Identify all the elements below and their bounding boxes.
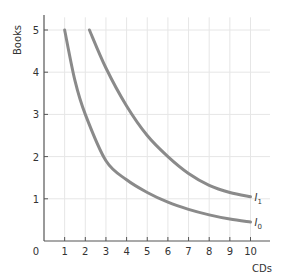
x-tick-label: 2 xyxy=(82,246,88,257)
y-tick-label: 1 xyxy=(33,194,39,205)
x-tick-label: 9 xyxy=(227,246,233,257)
x-tick-label: 7 xyxy=(185,246,191,257)
y-tick-label: 4 xyxy=(33,67,39,78)
x-tick-label: 8 xyxy=(206,246,212,257)
x-tick-label: 1 xyxy=(61,246,67,257)
x-axis-title: CDs xyxy=(252,263,272,274)
labels: 01234567891012345CDsBooksI0I1 xyxy=(12,25,272,274)
x-tick-label: 10 xyxy=(244,246,257,257)
x-tick-label: 5 xyxy=(144,246,150,257)
curve-label-i0: I0 xyxy=(255,217,262,231)
curves xyxy=(65,30,251,222)
y-tick-label: 2 xyxy=(33,152,39,163)
curve-label-i1: I1 xyxy=(255,192,262,206)
y-tick-label: 3 xyxy=(33,109,39,120)
axes xyxy=(44,15,270,241)
y-axis-title: Books xyxy=(12,25,23,55)
indifference-curve-chart: 01234567891012345CDsBooksI0I1 xyxy=(0,0,284,280)
x-tick-label: 4 xyxy=(123,246,129,257)
x-tick-label: 3 xyxy=(103,246,109,257)
y-tick-label: 5 xyxy=(33,25,39,36)
grid xyxy=(44,17,270,241)
x-tick-label: 0 xyxy=(33,246,39,257)
x-tick-label: 6 xyxy=(165,246,171,257)
curve-i0 xyxy=(65,30,251,222)
